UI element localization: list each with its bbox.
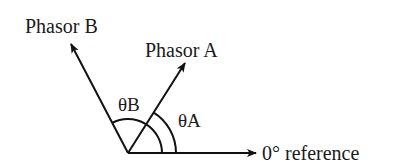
theta-b-label: θB xyxy=(118,94,140,115)
phasor-diagram: Phasor B Phasor A θB θA 0° reference xyxy=(0,0,407,168)
phasor-a-label: Phasor A xyxy=(145,39,218,61)
reference-label: 0° reference xyxy=(262,142,359,164)
theta-a-arc xyxy=(153,112,176,153)
phasor-b-label: Phasor B xyxy=(25,15,98,37)
theta-a-label: θA xyxy=(178,110,201,131)
